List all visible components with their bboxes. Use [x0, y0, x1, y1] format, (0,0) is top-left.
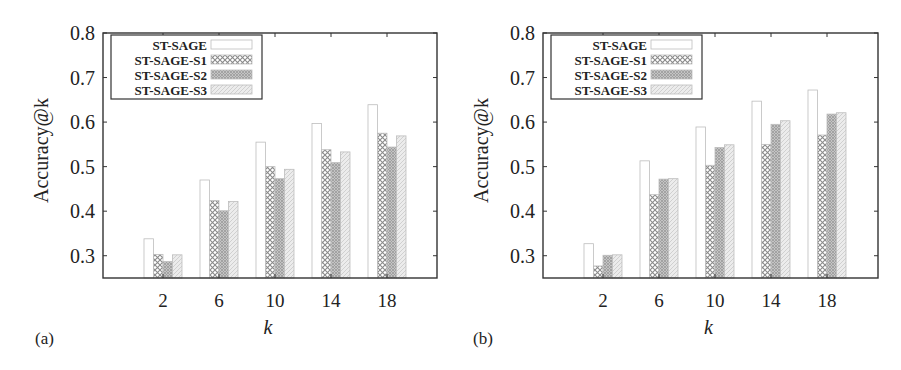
bar-st-sage-k14	[312, 123, 322, 278]
bar-st-sage-s2-k14	[331, 163, 341, 278]
bar-st-sage-s3-k14	[781, 121, 791, 278]
bar-st-sage-s1-k18	[378, 133, 388, 278]
bar-st-sage-s3-k6	[229, 201, 239, 278]
bar-st-sage-s1-k2	[154, 254, 164, 278]
legend-swatch	[651, 40, 692, 49]
bar-st-sage-s3-k6	[669, 179, 679, 278]
bar-st-sage-k10	[696, 127, 706, 278]
bar-st-sage-s1-k18	[818, 135, 828, 278]
bar-st-sage-s3-k14	[341, 152, 351, 278]
legend-swatch	[651, 55, 692, 64]
y-tick-label: 0.7	[70, 67, 95, 89]
bar-st-sage-k18	[808, 90, 818, 278]
bar-st-sage-s1-k6	[210, 200, 220, 278]
y-tick-label: 0.5	[70, 156, 95, 178]
y-tick-label: 0.4	[70, 200, 95, 222]
legend: ST-SAGEST-SAGE-S1ST-SAGE-S2ST-SAGE-S3	[551, 35, 702, 99]
x-axis-label: k	[704, 316, 714, 338]
legend-swatch	[651, 85, 692, 94]
bar-st-sage-k6	[640, 161, 650, 278]
legend-swatch	[211, 55, 252, 64]
x-tick-label: 6	[214, 290, 224, 311]
legend-label: ST-SAGE-S1	[135, 53, 208, 68]
bar-st-sage-s1-k10	[266, 167, 276, 278]
bar-st-sage-s2-k18	[827, 114, 837, 278]
y-tick-label: 0.7	[510, 67, 535, 89]
bar-st-sage-s1-k6	[650, 195, 660, 278]
bar-st-sage-s2-k6	[659, 179, 669, 278]
bars	[584, 90, 846, 278]
bar-st-sage-s1-k10	[706, 165, 716, 278]
legend-swatch	[651, 70, 692, 79]
bar-st-sage-s3-k10	[725, 145, 735, 278]
y-tick-label: 0.4	[510, 200, 535, 222]
x-tick-label: 10	[706, 290, 725, 311]
bar-st-sage-s1-k14	[762, 144, 772, 278]
panel-label-a: (a)	[35, 329, 54, 349]
bar-st-sage-k14	[752, 101, 762, 278]
bar-st-sage-s3-k2	[173, 255, 183, 278]
y-tick-label: 0.3	[70, 245, 95, 267]
bar-st-sage-k18	[368, 105, 378, 278]
legend-label: ST-SAGE	[593, 38, 647, 53]
x-tick-label: 6	[654, 290, 664, 311]
bar-st-sage-s3-k2	[613, 255, 623, 278]
legend-swatch	[211, 85, 252, 94]
bar-st-sage-s2-k2	[163, 262, 173, 278]
y-tick-label: 0.3	[510, 245, 535, 267]
chart-a: 261014180.30.40.50.60.70.8kAccuracy@kST-…	[0, 0, 450, 370]
x-tick-label: 10	[266, 290, 285, 311]
chart-b: 261014180.30.40.50.60.70.8kAccuracy@kST-…	[440, 0, 891, 370]
bar-st-sage-s2-k10	[275, 179, 285, 278]
bars	[144, 105, 406, 278]
bar-st-sage-s2-k2	[603, 255, 613, 278]
legend-label: ST-SAGE-S3	[135, 83, 208, 98]
bar-st-sage-s2-k6	[219, 211, 229, 278]
y-tick-label: 0.8	[70, 22, 95, 44]
legend-label: ST-SAGE	[153, 38, 207, 53]
bar-st-sage-s2-k14	[771, 124, 781, 278]
bar-st-sage-s3-k18	[397, 136, 407, 278]
bar-st-sage-s2-k10	[715, 147, 725, 278]
bar-st-sage-k6	[200, 180, 210, 278]
bar-st-sage-s3-k10	[285, 169, 295, 278]
y-axis-label: Accuracy@k	[30, 98, 53, 203]
x-axis-label: k	[264, 316, 274, 338]
legend-label: ST-SAGE-S2	[575, 68, 648, 83]
y-tick-label: 0.5	[510, 156, 535, 178]
bar-st-sage-s1-k14	[322, 150, 332, 278]
bar-st-sage-s2-k18	[387, 147, 397, 278]
bar-st-sage-k2	[584, 244, 594, 278]
legend-label: ST-SAGE-S1	[575, 53, 648, 68]
x-tick-label: 14	[762, 290, 782, 311]
legend-swatch	[211, 70, 252, 79]
y-tick-label: 0.6	[510, 111, 535, 133]
x-tick-label: 2	[598, 290, 608, 311]
x-tick-label: 2	[158, 290, 168, 311]
legend: ST-SAGEST-SAGE-S1ST-SAGE-S2ST-SAGE-S3	[111, 35, 262, 99]
y-axis-label: Accuracy@k	[470, 98, 493, 203]
panel-label-b: (b)	[473, 329, 493, 349]
y-tick-label: 0.8	[510, 22, 535, 44]
y-tick-label: 0.6	[70, 111, 95, 133]
x-tick-label: 14	[322, 290, 342, 311]
legend-swatch	[211, 40, 252, 49]
figure: 261014180.30.40.50.60.70.8kAccuracy@kST-…	[0, 0, 901, 370]
bar-st-sage-s1-k2	[594, 266, 604, 278]
x-tick-label: 18	[818, 290, 837, 311]
bar-st-sage-k2	[144, 239, 154, 278]
bar-st-sage-k10	[256, 142, 266, 278]
legend-label: ST-SAGE-S3	[575, 83, 648, 98]
x-tick-label: 18	[378, 290, 397, 311]
bar-st-sage-s3-k18	[837, 113, 847, 278]
legend-label: ST-SAGE-S2	[135, 68, 208, 83]
